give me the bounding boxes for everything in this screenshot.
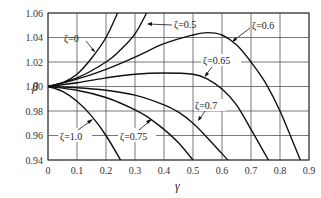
label-zeta-0.65: ζ=0.65 [201,54,241,77]
label-zeta-0.75: ζ=0.75 [118,119,156,143]
curve-zeta-0.65 [48,73,268,160]
x-tick-label: 0.3 [129,165,142,176]
label-zeta-0.75-text: ζ=0.75 [120,131,147,143]
label-zeta-0-text: ζ=0 [64,33,79,45]
label-zeta-0.7-text: ζ=0.7 [195,100,217,112]
label-zeta-1.0: ζ=1.0 [58,119,93,143]
x-tick-label: 0.5 [187,165,200,176]
x-tick-label: 0.7 [245,165,258,176]
y-tick-label: 1.02 [26,57,44,68]
label-zeta-0.65-text: ζ=0.65 [203,55,230,67]
curve-zeta-0.75 [48,87,193,161]
label-zeta-0.5-text: ζ=0.5 [174,19,196,31]
curve-zeta-1.0 [48,87,121,161]
label-zeta-0.6-text: ζ=0.6 [252,20,274,32]
y-tick-label: 0.96 [26,130,44,141]
x-axis-title: γ [175,179,180,193]
x-tick-label: 0 [46,165,51,176]
chart: 00.10.20.30.40.50.60.70.80.90.940.960.98… [0,0,321,198]
x-tick-label: 0.4 [158,165,171,176]
x-tick-label: 0.6 [216,165,229,176]
arrowhead-icon [91,48,95,52]
y-tick-label: 0.94 [26,155,44,166]
y-axis-title: β [31,80,38,94]
label-zeta-0.7: ζ=0.7 [194,99,226,121]
label-zeta-0.5: ζ=0.5 [147,19,196,31]
y-tick-label: 1.04 [26,32,44,43]
label-zeta-1.0-text: ζ=1.0 [60,131,82,143]
arrowhead-icon [147,22,152,26]
label-zeta-0.6: ζ=0.6 [232,20,274,42]
label-zeta-0: ζ=0 [64,33,95,52]
y-tick-label: 0.98 [26,106,44,117]
x-tick-label: 0.1 [71,165,84,176]
x-tick-label: 0.9 [303,165,316,176]
y-tick-label: 1.06 [26,8,44,19]
x-tick-label: 0.2 [100,165,113,176]
x-tick-label: 0.8 [274,165,287,176]
curve-zeta-0.7 [48,87,228,161]
arrowhead-icon [205,72,209,77]
